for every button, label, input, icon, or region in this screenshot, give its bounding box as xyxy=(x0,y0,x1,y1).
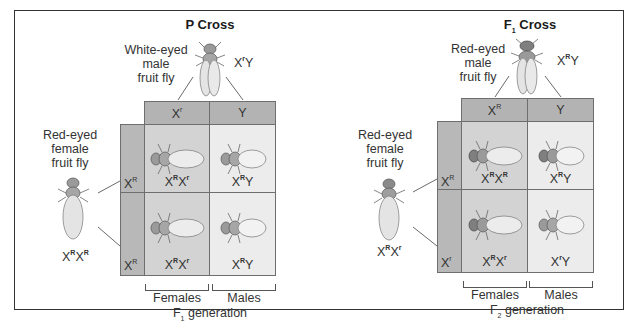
f1-generation-label: F2 generation xyxy=(477,303,577,323)
label-line: fruit fly xyxy=(353,156,417,170)
f1-female-parent-label: Red-eyed female fruit fly xyxy=(353,128,417,170)
females-bracket xyxy=(145,284,209,291)
female-fruit-fly-icon xyxy=(148,144,206,174)
row-header-label: XR xyxy=(441,174,454,189)
label-line: Red-eyed xyxy=(353,128,417,142)
female-fruit-fly-icon xyxy=(148,213,206,243)
p-female-parent-label: Red-eyed female fruit fly xyxy=(38,128,102,170)
f1-male-parent-label: Red-eyed male fruit fly xyxy=(450,42,506,84)
label-line: female xyxy=(38,142,102,156)
fruit-fly-icon xyxy=(372,176,406,244)
fruit-fly-icon xyxy=(509,38,545,98)
label-line: fruit fly xyxy=(450,70,506,84)
punnett-cell: XRXR xyxy=(461,121,528,190)
row-header-label: Xr xyxy=(441,255,452,270)
male-fruit-fly-icon xyxy=(536,210,586,240)
female-fruit-fly-icon xyxy=(466,141,524,171)
male-fruit-fly-icon xyxy=(536,141,586,171)
cell-genotype: XrY xyxy=(551,254,570,269)
cell-genotype: XRY xyxy=(232,174,254,189)
cell-genotype: XRXR xyxy=(481,171,508,186)
label-line: male xyxy=(450,56,506,70)
allele-sup: R xyxy=(132,176,137,183)
punnett-cell: XRY xyxy=(209,124,276,193)
allele-sup: r xyxy=(180,106,182,113)
row-header-label: XR xyxy=(124,176,137,191)
females-bracket xyxy=(463,281,527,288)
f1-cross-title: F1 Cross xyxy=(480,17,580,34)
fruit-fly-icon xyxy=(56,175,90,243)
label-line: female xyxy=(353,142,417,156)
cell-genotype: XRY xyxy=(550,171,572,186)
f1-female-parent-genotype: XRXr xyxy=(377,244,401,259)
males-bracket xyxy=(212,284,276,291)
column-header: Xr xyxy=(144,101,210,125)
male-fruit-fly-icon xyxy=(218,213,268,243)
f1-males-label: Males xyxy=(529,288,593,302)
column-header: Y xyxy=(527,98,594,122)
f1-male-parent-genotype: XRY xyxy=(557,53,579,68)
row-header-label: XR xyxy=(124,258,137,273)
punnett-cell: XRXr xyxy=(144,124,210,193)
cell-genotype: XRXr xyxy=(165,174,189,189)
p-generation-label: F1 generation xyxy=(160,306,260,323)
label-line: Red-eyed xyxy=(450,42,506,56)
allele-sup: R xyxy=(84,249,89,256)
cell-genotype: XRXr xyxy=(165,257,189,272)
p-females-label: Females xyxy=(145,291,209,305)
f1-females-label: Females xyxy=(463,288,527,302)
punnett-cell: XRXr xyxy=(461,189,528,273)
allele: Y xyxy=(238,106,246,120)
cell-genotype: XRXr xyxy=(482,254,506,269)
label-line: Red-eyed xyxy=(38,128,102,142)
allele: X xyxy=(172,107,180,121)
allele-sup: R xyxy=(132,258,137,265)
cell-genotype: XRY xyxy=(232,257,254,272)
punnett-cell: XRXr xyxy=(144,192,210,276)
males-bracket xyxy=(529,281,593,288)
p-female-parent-genotype: XRXR xyxy=(62,249,89,264)
punnett-cell: XRY xyxy=(209,192,276,276)
p-males-label: Males xyxy=(212,291,276,305)
allele: X xyxy=(75,250,83,264)
punnett-cell: XRY xyxy=(527,121,594,190)
female-fruit-fly-icon xyxy=(466,210,524,240)
punnett-cell: XrY xyxy=(527,189,594,273)
column-header: Y xyxy=(209,101,276,125)
column-header: XR xyxy=(461,98,528,122)
label-line: fruit fly xyxy=(38,156,102,170)
male-fruit-fly-icon xyxy=(218,144,268,174)
